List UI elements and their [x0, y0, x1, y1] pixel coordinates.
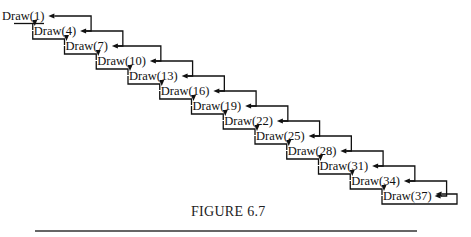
call-node-label: Draw(16) — [161, 84, 210, 98]
call-node-label: Draw(10) — [97, 54, 146, 68]
call-node-label: Draw(34) — [351, 174, 400, 188]
call-nodes: Draw(1)Draw(4)Draw(7)Draw(10)Draw(13)Dra… — [2, 9, 432, 203]
caption-rule — [35, 230, 417, 232]
arrowhead-icon — [80, 29, 86, 34]
arrowhead-icon — [404, 179, 410, 184]
call-node-label: Draw(4) — [34, 24, 76, 38]
arrowhead-icon — [150, 59, 156, 64]
call-node-label: Draw(1) — [2, 9, 44, 23]
arrowhead-icon — [213, 89, 219, 94]
figure-caption: FIGURE 6.7 — [191, 204, 266, 220]
call-node-label: Draw(13) — [129, 69, 178, 83]
arrowhead-icon — [245, 104, 251, 109]
call-node-label: Draw(37) — [383, 189, 432, 203]
arrowhead-icon — [182, 74, 188, 79]
call-node-label: Draw(28) — [288, 144, 337, 158]
arrowhead-icon — [309, 134, 315, 139]
arrowhead-icon — [277, 119, 283, 124]
call-node-label: Draw(25) — [256, 129, 305, 143]
arrowhead-icon — [372, 164, 378, 169]
recursion-call-diagram: Draw(1)Draw(4)Draw(7)Draw(10)Draw(13)Dra… — [0, 0, 471, 237]
call-node-label: Draw(7) — [66, 39, 108, 53]
call-node-label: Draw(31) — [320, 159, 369, 173]
arrowhead-icon — [340, 149, 346, 154]
call-node-label: Draw(22) — [224, 114, 273, 128]
call-node-label: Draw(19) — [193, 99, 242, 113]
arrowhead-icon — [48, 14, 54, 19]
arrowhead-icon — [112, 44, 118, 49]
